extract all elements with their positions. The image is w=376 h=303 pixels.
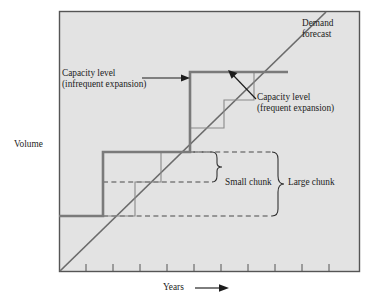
capacity-frequent-label-line2: (frequent expansion): [257, 103, 334, 114]
y-axis-label: Volume: [14, 139, 43, 150]
demand-forecast-label-line2: forecast: [302, 29, 331, 40]
demand-forecast-label-line1: Demand: [302, 18, 334, 29]
capacity-frequent-label-line1: Capacity level: [257, 92, 310, 103]
capacity-infrequent-label-line1: Capacity level: [62, 68, 115, 79]
plot-area-frame: [60, 12, 360, 272]
small-chunk-label: Small chunk: [225, 177, 272, 188]
large-chunk-label: Large chunk: [288, 177, 335, 188]
x-axis-label: Years: [163, 282, 184, 293]
years-arrow-icon: [195, 284, 229, 292]
chart-canvas: [0, 0, 376, 303]
capacity-expansion-figure: Volume Years Demand forecast Capacity le…: [0, 0, 376, 303]
capacity-infrequent-label-line2: (infrequent expansion): [62, 79, 146, 90]
